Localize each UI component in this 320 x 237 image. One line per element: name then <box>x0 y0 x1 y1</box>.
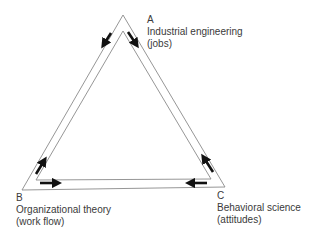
node-a-letter: A <box>147 14 243 26</box>
node-a-subtitle: (jobs) <box>147 38 243 50</box>
inner-triangle <box>36 31 211 180</box>
node-c-letter: C <box>217 190 301 202</box>
node-b-subtitle: (work flow) <box>16 216 111 228</box>
node-c-title: Behavioral science <box>217 202 301 214</box>
node-b-title: Organizational theory <box>16 204 111 216</box>
node-a-title: Industrial engineering <box>147 26 243 38</box>
node-b-letter: B <box>16 192 111 204</box>
node-c-subtitle: (attitudes) <box>217 214 301 226</box>
node-b-label: B Organizational theory (work flow) <box>16 192 111 228</box>
node-c-label: C Behavioral science (attitudes) <box>217 190 301 226</box>
node-a-label: A Industrial engineering (jobs) <box>147 14 243 50</box>
